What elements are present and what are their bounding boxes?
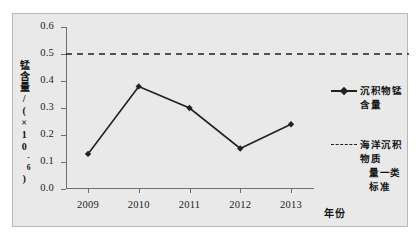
legend-label-marine-standard-line2: 量一类标准 — [360, 166, 409, 194]
chart-legend: 沉积物锰含量 海洋沉积物质量一类标准 — [331, 84, 409, 220]
y-tick-label: 0.6 — [40, 20, 54, 31]
y-tick-label: 0.3 — [40, 101, 54, 112]
legend-label-marine-standard: 海洋沉积物质量一类标准 — [360, 138, 409, 194]
series-svg — [66, 27, 314, 190]
x-tick-label: 2009 — [77, 199, 99, 210]
data-point-markers — [85, 83, 294, 157]
sediment-manganese-line — [88, 86, 291, 153]
y-tick-label: 0.4 — [40, 74, 54, 85]
dashed-line-icon — [331, 139, 357, 151]
y-tick-label: 0.1 — [40, 155, 54, 166]
legend-label-sediment-manganese: 沉积物锰含量 — [360, 84, 409, 112]
y-axis-title-text: 锰含量/(×10 — [19, 60, 30, 153]
plot-area: 0.00.10.20.30.40.50.6 200920102011201220… — [66, 27, 313, 189]
chart-figure: 锰含量/(×10-6) 年份 0.00.10.20.30.40.50.6 200… — [12, 13, 408, 227]
solid-line-diamond-marker-icon — [331, 85, 357, 97]
data-point-marker — [288, 121, 294, 127]
x-tick-label: 2013 — [280, 199, 302, 210]
y-tick-label: 0.2 — [40, 128, 54, 139]
legend-item-sediment-manganese: 沉积物锰含量 — [331, 84, 409, 112]
x-tick-label: 2010 — [128, 199, 150, 210]
legend-label-marine-standard-line1: 海洋沉积物质 — [360, 140, 402, 164]
y-tick-label: 0.0 — [40, 182, 54, 193]
x-tick-label: 2012 — [229, 199, 251, 210]
y-axis-title: 锰含量/(×10-6) — [21, 60, 36, 185]
y-axis-title-close: ) — [19, 173, 30, 185]
legend-item-marine-standard: 海洋沉积物质量一类标准 — [331, 138, 409, 194]
x-tick-label: 2011 — [179, 199, 200, 210]
y-tick-label: 0.5 — [40, 47, 54, 58]
y-axis-title-exponent: -6 — [24, 153, 33, 173]
